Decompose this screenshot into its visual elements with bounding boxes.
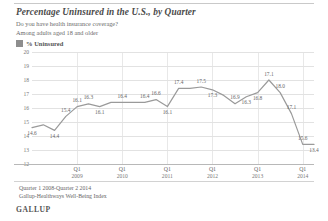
data-point-label: 15.6	[298, 135, 307, 141]
legend-label: % Uninsured	[26, 40, 63, 47]
data-point-label: 16.6	[151, 90, 160, 96]
x-axis-line	[14, 164, 314, 165]
footer-source: Gallup-Healthways Well-Being Index	[19, 193, 107, 199]
x-axis-tick-2010: Q12010	[117, 166, 128, 179]
x-tick-quarter: Q1	[117, 166, 128, 172]
footer-divider	[14, 181, 314, 182]
data-point-label: 17.1	[287, 104, 296, 110]
x-tick-quarter: Q1	[162, 166, 173, 172]
data-point-label: 16.3	[84, 94, 93, 100]
data-point-label: 17.5	[196, 78, 205, 84]
y-axis-tick-15: 15	[23, 119, 29, 125]
x-axis-tick-2011: Q12011	[162, 166, 173, 179]
x-axis-tick-2013: Q12013	[252, 166, 263, 179]
data-point-label: 16.3	[242, 99, 251, 105]
data-point-label: 16.9	[230, 94, 239, 100]
data-point-label: 17.3	[208, 92, 217, 98]
x-tick-quarter: Q1	[297, 166, 308, 172]
x-axis-tick-2012: Q12012	[207, 166, 218, 179]
y-axis-tick-13: 13	[23, 147, 29, 153]
plot-grid: 14.614.415.416.116.316.116.416.416.616.1…	[32, 52, 314, 164]
y-axis: 121314151617181920	[14, 52, 30, 164]
x-tick-year: 2012	[207, 173, 218, 179]
x-tick-year: 2014	[297, 173, 308, 179]
series-line-uninsured	[32, 52, 314, 164]
x-tick-year: 2011	[162, 173, 173, 179]
chart-subtitle-population: Among adults aged 18 and older	[16, 29, 98, 36]
y-axis-tick-18: 18	[23, 77, 29, 83]
y-axis-tick-20: 20	[23, 49, 29, 55]
plot-area: 121314151617181920 14.614.415.416.116.31…	[14, 52, 314, 164]
x-axis-tick-2014: Q12014	[297, 166, 308, 179]
x-tick-quarter: Q1	[72, 166, 83, 172]
gallup-logo: GALLUP	[16, 205, 51, 214]
data-point-label: 16.1	[72, 97, 81, 103]
data-point-label: 16.1	[163, 109, 172, 115]
footer-date-range: Quarter 1 2008-Quarter 2 2014	[19, 185, 91, 191]
top-divider	[14, 3, 314, 4]
page-title: Percentage Uninsured in the U.S., by Qua…	[16, 7, 196, 17]
data-point-label: 18.0	[275, 83, 284, 89]
chart-legend: % Uninsured	[16, 40, 63, 47]
chart-page: Percentage Uninsured in the U.S., by Qua…	[0, 0, 328, 221]
data-point-label: 16.8	[253, 95, 262, 101]
y-axis-tick-17: 17	[23, 91, 29, 97]
x-tick-year: 2013	[252, 173, 263, 179]
data-point-label: 15.4	[61, 107, 70, 113]
chart-subtitle-question: Do you have health insurance coverage?	[16, 20, 118, 27]
data-point-label: 16.4	[118, 93, 127, 99]
data-point-label: 16.4	[140, 93, 149, 99]
legend-swatch-icon	[16, 40, 23, 47]
data-point-label: 14.4	[50, 133, 59, 139]
data-point-label: 17.1	[264, 71, 273, 77]
data-point-label: 16.1	[95, 109, 104, 115]
x-tick-year: 2010	[117, 173, 128, 179]
data-point-label: 14.6	[27, 130, 36, 136]
y-axis-tick-16: 16	[23, 105, 29, 111]
x-tick-quarter: Q1	[207, 166, 218, 172]
x-tick-year: 2009	[72, 173, 83, 179]
data-point-label: 17.4	[174, 79, 183, 85]
x-axis-tick-2009: Q12009	[72, 166, 83, 179]
x-tick-quarter: Q1	[252, 166, 263, 172]
data-point-label: 13.4	[309, 147, 318, 153]
y-axis-tick-19: 19	[23, 63, 29, 69]
